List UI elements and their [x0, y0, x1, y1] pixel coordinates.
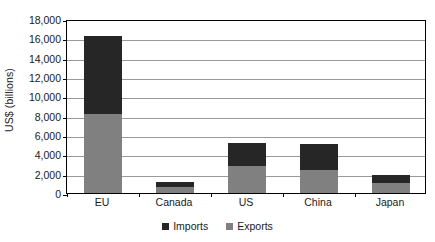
bar-segment-imports[interactable] — [228, 143, 266, 166]
legend-label: Imports — [173, 220, 208, 232]
y-axis-title-text: US$ (billions) — [3, 68, 15, 132]
bar-segment-imports[interactable] — [300, 144, 338, 170]
y-tick-label: 6,000 — [35, 130, 61, 142]
x-tick-label: US — [239, 196, 254, 208]
y-tick-label: 4,000 — [35, 149, 61, 161]
y-tick-label: 12,000 — [29, 72, 61, 84]
bar-group[interactable] — [84, 19, 122, 193]
plot-area — [66, 20, 426, 194]
y-tick-label: 16,000 — [29, 33, 61, 45]
bar-segment-exports[interactable] — [372, 183, 410, 193]
y-tick-label: 8,000 — [35, 111, 61, 123]
y-tick-label: 2,000 — [35, 169, 61, 181]
bar-segment-exports[interactable] — [84, 114, 122, 193]
bar-segment-exports[interactable] — [300, 170, 338, 193]
legend-label: Exports — [237, 220, 273, 232]
bar-segment-imports[interactable] — [84, 36, 122, 113]
legend-item[interactable]: Exports — [226, 220, 273, 232]
y-tick-label: 10,000 — [29, 91, 61, 103]
bar-segment-imports[interactable] — [372, 175, 410, 183]
y-tick-label: 14,000 — [29, 53, 61, 65]
bar-group[interactable] — [300, 19, 338, 193]
chart-legend: ImportsExports — [0, 220, 435, 232]
bar-group[interactable] — [228, 19, 266, 193]
bar-segment-imports[interactable] — [156, 182, 194, 187]
x-tick-label: EU — [95, 196, 110, 208]
y-axis-tick-labels: 02,0004,0006,0008,00010,00012,00014,0001… — [18, 20, 65, 194]
bar-group[interactable] — [372, 19, 410, 193]
y-axis-title: US$ (billions) — [0, 0, 18, 200]
x-tick-label: Canada — [156, 196, 193, 208]
x-tick-label: Japan — [376, 196, 405, 208]
bar-segment-exports[interactable] — [228, 166, 266, 193]
bar-group[interactable] — [156, 19, 194, 193]
chart-figure: US$ (billions) 02,0004,0006,0008,00010,0… — [0, 0, 435, 242]
legend-item[interactable]: Imports — [162, 220, 208, 232]
x-tick-label: China — [304, 196, 331, 208]
legend-swatch-icon — [226, 223, 233, 230]
x-axis-tick-labels: EUCanadaUSChinaJapan — [66, 196, 426, 214]
legend-swatch-icon — [162, 223, 169, 230]
y-tick-label: 18,000 — [29, 14, 61, 26]
bar-segment-exports[interactable] — [156, 187, 194, 193]
bars-layer — [67, 21, 425, 193]
y-tick-label: 0 — [55, 188, 61, 200]
